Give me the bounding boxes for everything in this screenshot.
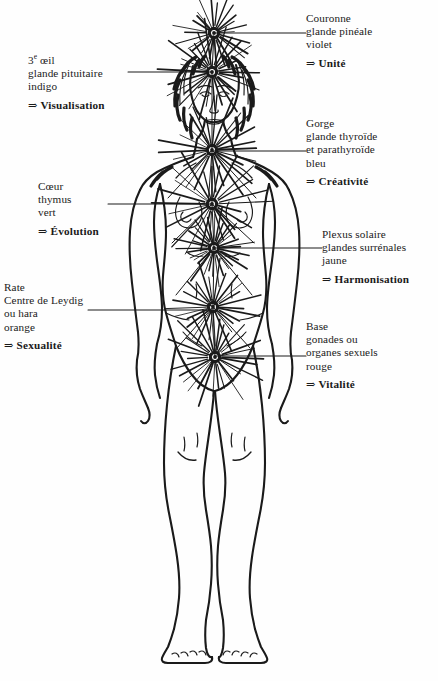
label-heart-line-1: Cœur	[38, 180, 99, 193]
chakra-crown	[173, 0, 250, 68]
label-throat-keyword-text: Créativité	[319, 175, 369, 187]
chakra-ray	[176, 248, 209, 249]
label-throat: Gorge glande thyroïde et parathyroïde bl…	[306, 117, 377, 188]
chakra-core-dot	[211, 305, 215, 309]
chakra-ray	[159, 140, 206, 149]
label-solar-plexus-line-1: Plexus solaire	[322, 228, 409, 241]
chakra-ray	[185, 32, 206, 33]
arrow-icon: ⇒	[28, 99, 38, 111]
label-spleen-line-3: ou hara	[4, 307, 83, 320]
label-third-eye-line-1: 3e œil	[28, 54, 105, 67]
chakra-ray	[158, 69, 207, 72]
arrow-icon: ⇒	[4, 339, 14, 351]
chakra-ray	[220, 72, 260, 73]
label-spleen-keyword: ⇒ Sexualité	[4, 339, 83, 352]
chakra-points-group	[152, 0, 273, 406]
label-spleen: Rate Centre de Leydig ou hara orange ⇒ S…	[4, 281, 83, 352]
label-heart-keyword-text: Évolution	[51, 225, 99, 237]
label-base-keyword: ⇒ Vitalité	[306, 378, 378, 391]
label-base-line-2: gonades ou	[306, 333, 378, 346]
chakra-ray	[211, 0, 213, 26]
chakra-plexus	[174, 207, 254, 287]
chakra-diagram-page: Couronne glande pinéale violet ⇒ Unité 3…	[0, 0, 438, 681]
label-third-eye-line-3: indigo	[28, 80, 105, 93]
label-throat-line-2: glande thyroïde	[306, 130, 377, 143]
label-spleen-keyword-text: Sexualité	[17, 339, 62, 351]
label-throat-line-4: bleu	[306, 157, 377, 170]
label-heart: Cœur thymus vert ⇒ Évolution	[38, 180, 99, 238]
label-spleen-line-1: Rate	[4, 281, 83, 294]
label-spleen-line-2: Centre de Leydig	[4, 294, 83, 307]
arrow-icon: ⇒	[306, 175, 316, 187]
label-base-keyword-text: Vitalité	[318, 378, 355, 390]
chakra-ray	[214, 259, 220, 301]
chakra-ray	[165, 307, 206, 308]
chakra-ray	[220, 190, 268, 202]
label-base-line-4: rouge	[306, 360, 378, 373]
label-heart-keyword: ⇒ Évolution	[38, 225, 99, 238]
chakra-ray	[168, 74, 206, 85]
label-throat-line-3: et parathyroïde	[306, 143, 377, 156]
label-crown-keyword-text: Unité	[319, 57, 346, 69]
label-crown-line-1: Couronne	[306, 12, 372, 25]
chakra-ray	[214, 214, 215, 242]
arrow-icon: ⇒	[322, 273, 332, 285]
label-third-eye: 3e œil glande pituitaire indigo ⇒ Visual…	[28, 54, 105, 112]
label-crown: Couronne glande pinéale violet ⇒ Unité	[306, 12, 372, 70]
label-third-eye-line-2: glande pituitaire	[28, 67, 105, 80]
label-solar-plexus: Plexus solaire glandes surrénales jaune …	[322, 228, 409, 286]
label-third-eye-keyword-text: Visualisation	[40, 99, 104, 111]
label-crown-keyword: ⇒ Unité	[306, 57, 372, 70]
label-spleen-line-4: orange	[4, 321, 83, 334]
label-solar-plexus-line-2: glandes surrénales	[322, 241, 409, 254]
chakra-ray	[220, 308, 260, 316]
chakra-ray	[159, 150, 207, 152]
label-heart-line-2: thymus	[38, 193, 99, 206]
chakra-ray	[218, 77, 235, 91]
label-base-line-1: Base	[306, 320, 378, 333]
arrow-icon: ⇒	[306, 378, 316, 390]
chakra-ray	[188, 357, 208, 358]
label-base-line-3: organes sexuels	[306, 346, 378, 359]
arrow-icon: ⇒	[38, 225, 48, 237]
label-crown-line-3: violet	[306, 38, 372, 51]
label-solar-plexus-keyword: ⇒ Harmonisation	[322, 273, 409, 286]
arrow-icon: ⇒	[306, 57, 316, 69]
chakra-ray	[215, 3, 218, 25]
label-base: Base gonades ou organes sexuels rouge ⇒ …	[306, 320, 378, 391]
label-throat-line-1: Gorge	[306, 117, 377, 130]
label-solar-plexus-keyword-text: Harmonisation	[335, 273, 410, 285]
label-solar-plexus-line-3: jaune	[322, 254, 409, 267]
label-heart-line-3: vert	[38, 206, 99, 219]
label-crown-line-2: glande pinéale	[306, 25, 372, 38]
label-throat-keyword: ⇒ Créativité	[306, 175, 377, 188]
chakra-ray	[219, 73, 243, 77]
label-third-eye-keyword: ⇒ Visualisation	[28, 99, 105, 112]
